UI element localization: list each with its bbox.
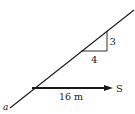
displacement-label: 16 m (59, 91, 83, 102)
point-label: a (3, 102, 8, 112)
rise-label: 3 (110, 36, 116, 47)
run-label: 4 (91, 54, 97, 65)
diagram-canvas: 3 4 S 16 m a (0, 0, 135, 114)
arrowhead-icon (104, 85, 113, 91)
force-label: S (116, 83, 123, 94)
